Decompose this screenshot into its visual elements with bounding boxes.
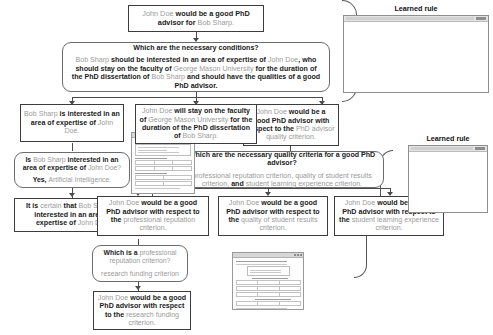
node-leaf-student-results[interactable]: John Doe would be a good PhD advisor wit… [218,196,328,236]
leaf-reputation-text: John Doe would be a good PhD advisor wit… [101,199,205,232]
node-sub-interest[interactable]: Bob Sharp is interested in an area of ex… [20,104,124,142]
leaf-funding-text: John Doe would be a good PhD advisor wit… [97,294,187,327]
panel-learned-rule-top: Learned rule [343,4,489,93]
sub-quality-text: John Doe would be a good PhD advisor wit… [247,108,335,141]
q-interest-question: Is Bob Sharp interested in an area of ex… [20,156,124,172]
sub-faculty-text: John Doe will stay on the faculty of Geo… [139,107,253,140]
panel-top-content [344,22,488,29]
q3-answer: research funding criterion [97,270,183,278]
connector-interest-to-q [72,143,73,151]
panel-top-sheet[interactable] [343,15,489,93]
arrow-q-to-concl [69,193,75,197]
node-root-text: John Doe would be a good PhD advisor for… [132,10,260,27]
q3-question: Which is a professional reputation crite… [97,249,183,265]
connector-q1-bus [72,97,322,98]
thumb-lower-body [233,258,303,310]
q1-answer: Bob Sharp should be interested in an are… [71,56,321,89]
q-interest-answer: Yes, Artificial Intelligence. [20,176,124,184]
node-question-interest[interactable]: Is Bob Sharp interested in an area of ex… [14,152,130,188]
node-leaf-research-funding[interactable]: John Doe would be a good PhD advisor wit… [93,291,191,330]
thumb-left-body [132,138,194,192]
panel-right-sheet[interactable] [408,145,488,213]
node-sub-faculty[interactable]: John Doe will stay on the faculty of Geo… [135,104,257,144]
q1-question: Which are the necessary conditions? [71,44,321,52]
node-leaf-professional-reputation[interactable]: John Doe would be a good PhD advisor wit… [97,196,209,236]
sub-interest-text: Bob Sharp is interested in an area of ex… [24,110,120,135]
q2-question: Which are the necessary quality criteria… [187,151,377,168]
leaf-results-text: John Doe would be a good PhD advisor wit… [222,199,324,232]
panel-right-title: Learned rule [408,134,488,143]
thumb-rule-editor-lower[interactable] [232,252,304,310]
node-root-hypothesis[interactable]: John Doe would be a good PhD advisor for… [128,5,264,32]
panel-top-title: Learned rule [343,4,489,13]
node-question-reputation-criterion[interactable]: Which is a professional reputation crite… [92,245,188,282]
node-question-quality-criteria[interactable]: Which are the necessary quality criteria… [180,151,384,188]
panel-learned-rule-right: Learned rule [408,134,488,213]
node-question-necessary-conditions[interactable]: Which are the necessary conditions? Bob … [62,42,330,92]
arrow-q3-to-funding [135,286,141,290]
q2-answer: professional reputation criterion, quali… [187,172,377,189]
panel-right-content [409,152,487,158]
reasoning-tree-figure: John Doe would be a good PhD advisor for… [0,0,493,335]
node-sub-quality[interactable]: John Doe would be a good PhD advisor wit… [243,104,339,146]
